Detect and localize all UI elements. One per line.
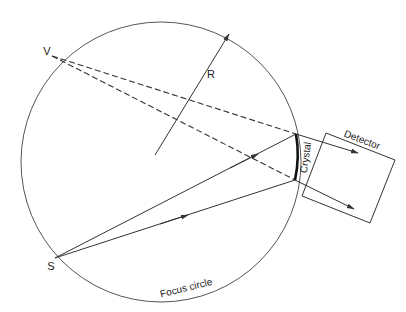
focus-circle-diagram: V S R Crystal Detector Focus circle: [0, 0, 406, 312]
source-ray-upper-arrow: [230, 154, 258, 168]
virtual-ray-lower: [52, 56, 295, 180]
focus-circle: [21, 22, 301, 302]
label-focus-circle: Focus circle: [159, 276, 214, 300]
crystal: [295, 134, 298, 180]
label-detector: Detector: [343, 128, 383, 152]
label-r: R: [207, 68, 215, 80]
label-v: V: [43, 45, 51, 57]
detector-box: [302, 133, 395, 223]
label-s: S: [47, 260, 54, 272]
source-ray-upper: [55, 134, 296, 258]
radius-arrow: [155, 34, 229, 155]
source-ray-lower-arrow: [160, 215, 188, 224]
virtual-ray-upper: [52, 56, 296, 134]
